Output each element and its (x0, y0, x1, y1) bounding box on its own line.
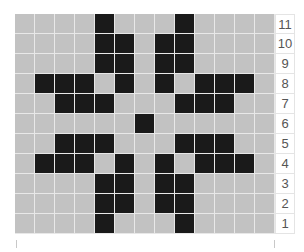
filled-cell (175, 214, 195, 234)
empty-cell (195, 214, 215, 234)
empty-cell (175, 114, 195, 134)
empty-cell (235, 214, 255, 234)
empty-cell (215, 214, 235, 234)
empty-cell (135, 214, 155, 234)
empty-cell (15, 94, 35, 114)
filled-cell (75, 94, 95, 114)
filled-cell (95, 94, 115, 114)
filled-cell (115, 34, 135, 54)
empty-cell (15, 174, 35, 194)
filled-cell (95, 14, 115, 34)
empty-cell (15, 154, 35, 174)
filled-cell (215, 74, 235, 94)
empty-cell (35, 14, 55, 34)
empty-cell (75, 114, 95, 134)
empty-cell (35, 174, 55, 194)
filled-cell (195, 154, 215, 174)
empty-cell (15, 134, 35, 154)
filled-cell (215, 94, 235, 114)
empty-cell (75, 194, 95, 214)
empty-cell (155, 14, 175, 34)
empty-cell (15, 74, 35, 94)
row-number: 1 (275, 214, 295, 234)
filled-cell (155, 74, 175, 94)
empty-cell (215, 194, 235, 214)
empty-cell (95, 114, 115, 134)
empty-cell (235, 194, 255, 214)
empty-cell (255, 134, 275, 154)
empty-cell (55, 14, 75, 34)
empty-cell (15, 34, 35, 54)
empty-cell (75, 174, 95, 194)
empty-cell (195, 54, 215, 74)
empty-cell (235, 34, 255, 54)
row-number: 8 (275, 74, 295, 94)
filled-cell (115, 194, 135, 214)
filled-cell (95, 54, 115, 74)
filled-cell (115, 174, 135, 194)
filled-cell (95, 34, 115, 54)
filled-cell (235, 74, 255, 94)
filled-cell (195, 134, 215, 154)
empty-cell (175, 74, 195, 94)
empty-cell (155, 94, 175, 114)
empty-cell (15, 54, 35, 74)
filled-cell (175, 194, 195, 214)
filled-cell (215, 134, 235, 154)
empty-cell (235, 14, 255, 34)
empty-cell (255, 114, 275, 134)
filled-cell (55, 94, 75, 114)
filled-cell (75, 134, 95, 154)
empty-cell (115, 134, 135, 154)
empty-cell (215, 14, 235, 34)
empty-cell (35, 214, 55, 234)
empty-cell (75, 14, 95, 34)
empty-cell (35, 134, 55, 154)
row-number: 9 (275, 54, 295, 74)
filled-cell (175, 174, 195, 194)
filled-cell (175, 54, 195, 74)
filled-cell (155, 174, 175, 194)
filled-cell (155, 54, 175, 74)
filled-cell (135, 114, 155, 134)
filled-cell (215, 154, 235, 174)
filled-cell (75, 154, 95, 174)
filled-cell (115, 74, 135, 94)
empty-cell (215, 54, 235, 74)
filled-cell (195, 94, 215, 114)
row-number: 10 (275, 34, 295, 54)
empty-cell (95, 154, 115, 174)
empty-cell (135, 14, 155, 34)
filled-cell (55, 154, 75, 174)
empty-cell (195, 174, 215, 194)
filled-cell (55, 74, 75, 94)
filled-cell (175, 94, 195, 114)
filled-cell (175, 14, 195, 34)
empty-cell (35, 94, 55, 114)
empty-cell (35, 54, 55, 74)
empty-cell (115, 114, 135, 134)
empty-cell (75, 54, 95, 74)
empty-cell (35, 194, 55, 214)
filled-cell (195, 74, 215, 94)
filled-cell (155, 154, 175, 174)
row-number: 4 (275, 154, 295, 174)
empty-cell (255, 54, 275, 74)
filled-cell (155, 194, 175, 214)
filled-cell (235, 154, 255, 174)
empty-cell (255, 214, 275, 234)
empty-cell (135, 134, 155, 154)
empty-cell (15, 214, 35, 234)
filled-cell (115, 154, 135, 174)
empty-cell (135, 154, 155, 174)
filled-cell (95, 174, 115, 194)
empty-cell (215, 114, 235, 134)
filled-cell (175, 134, 195, 154)
filled-cell (55, 134, 75, 154)
empty-cell (55, 174, 75, 194)
filled-cell (175, 34, 195, 54)
row-number: 3 (275, 174, 295, 194)
empty-cell (95, 74, 115, 94)
filled-cell (95, 214, 115, 234)
row-number: 2 (275, 194, 295, 214)
